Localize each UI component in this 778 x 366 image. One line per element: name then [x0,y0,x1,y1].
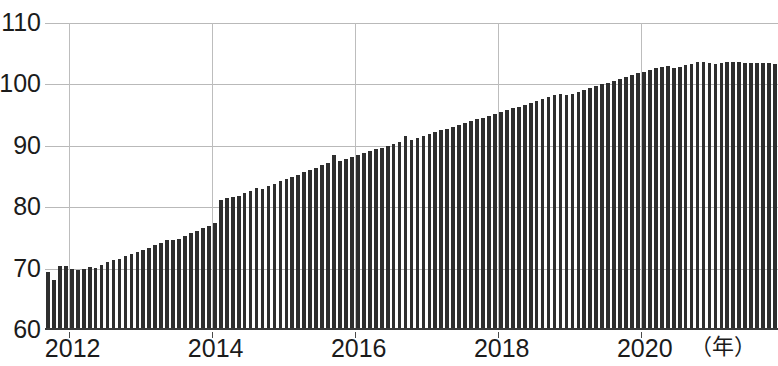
bar [404,136,408,328]
bar [52,280,56,328]
bar [302,172,306,328]
bar [559,94,563,328]
bar [731,62,735,328]
bar [141,250,145,328]
bar [296,175,300,328]
bar [457,125,461,328]
bar [523,105,527,328]
bar [618,79,622,328]
bar [678,67,682,328]
x-axis-tick-label: 2014 [188,336,244,361]
bar-series [45,23,778,328]
bar [475,119,479,328]
bar [708,63,712,328]
bar [743,63,747,328]
bar [249,191,253,328]
bar [571,94,575,328]
bar [58,266,62,328]
bar [720,63,724,328]
bar [577,92,581,328]
y-axis-tick-label: 60 [13,317,41,342]
bar [136,252,140,328]
bar [380,148,384,328]
bar [261,189,265,328]
bar [356,155,360,328]
bar [666,66,670,328]
bar [88,267,92,328]
bar [112,260,116,328]
bar [177,239,181,328]
bar [326,163,330,328]
bar [642,72,646,328]
bar [463,123,467,328]
bar [183,236,187,328]
bar [46,272,50,328]
bar [761,63,765,328]
bar [624,77,628,328]
bar [237,196,241,328]
bar [82,269,86,328]
bar [535,101,539,328]
bar [201,228,205,328]
bar [70,269,74,328]
x-axis-line [45,328,778,330]
y-axis-tick-label: 70 [13,256,41,281]
bar [350,157,354,328]
bar [606,83,610,328]
bar [660,67,664,328]
bar [267,186,271,328]
bar [594,86,598,328]
bar [600,84,604,328]
bar [582,90,586,328]
bar [153,245,157,328]
bar [94,268,98,328]
bar [565,95,569,328]
bar [124,256,128,328]
bar [398,142,402,328]
bar [231,197,235,328]
bar [320,165,324,328]
bar [445,129,449,328]
bar [702,62,706,328]
bar [106,262,110,328]
bar [171,240,175,328]
bar [541,99,545,328]
bar [243,193,247,328]
bar [714,64,718,328]
bar [511,108,515,328]
bar [684,65,688,328]
bar [517,107,521,328]
bar [529,103,533,328]
x-axis-tick-label: 2016 [331,336,387,361]
bar [118,259,122,328]
bar [749,63,753,328]
bar [189,233,193,328]
bar [308,170,312,328]
bar [344,159,348,328]
bar [469,121,473,328]
bar [159,243,163,328]
bar [422,136,426,328]
y-axis-tick-label: 80 [13,194,41,219]
bar [374,149,378,328]
bar [100,265,104,328]
bar [690,64,694,328]
y-axis-tick-label: 90 [13,133,41,158]
bar [737,62,741,328]
bar [493,114,497,328]
bar [428,134,432,328]
bar [636,73,640,328]
bar [654,68,658,328]
bar [672,68,676,328]
bar [696,62,700,328]
bar [285,179,289,328]
bar [219,200,223,328]
bar [588,88,592,328]
bar [290,177,294,329]
bar [338,161,342,328]
bar [499,112,503,328]
bar [207,226,211,328]
bar [553,95,557,328]
bar [255,188,259,328]
bar [547,97,551,328]
